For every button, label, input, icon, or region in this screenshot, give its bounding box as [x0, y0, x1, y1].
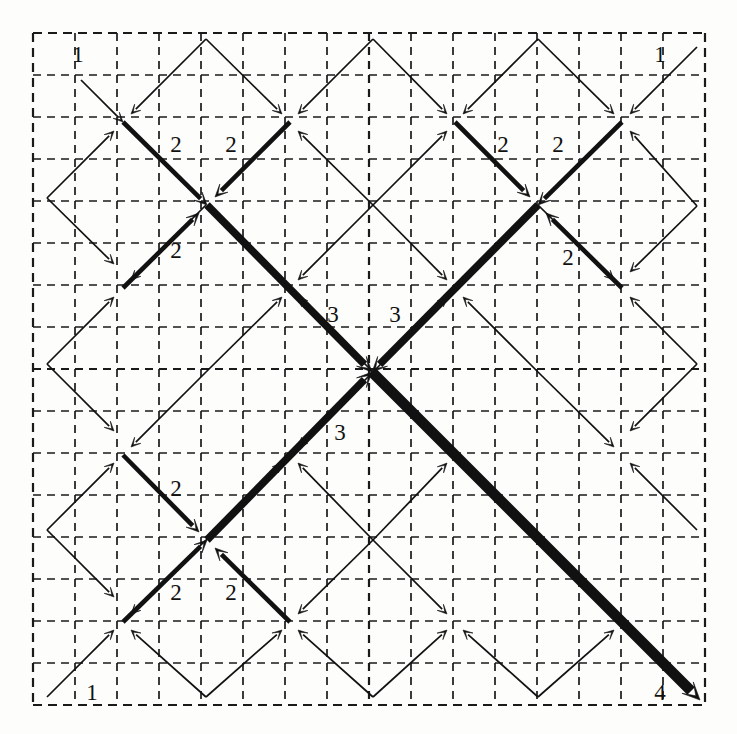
e1-nw-of-n00-shaft: [81, 80, 118, 117]
weight-label-2-bl-c: 2: [225, 580, 237, 605]
e1-nw-of-n01-shaft: [47, 198, 109, 259]
e1-nw-of-n10: [206, 39, 282, 114]
weight-label-2-tr-b: 2: [552, 132, 564, 157]
weight-label-2-tl-c: 2: [170, 238, 182, 263]
edges-layer: [47, 39, 700, 700]
e1-ne-of-n20-shaft: [468, 39, 538, 109]
e2-n01-to-c-tl: [123, 213, 199, 288]
e1-se-of-n10-shaft: [303, 136, 373, 205]
weight-label-2-tl-b: 2: [225, 132, 237, 157]
e1-sw-of-n01-shaft: [47, 302, 109, 364]
e1-sw-of-n23-shaft: [373, 635, 442, 697]
e1-ne-of-n30-shaft: [635, 47, 697, 109]
e1-ne-of-n10-shaft: [303, 39, 373, 109]
e1-se-of-n10: [298, 131, 373, 205]
e1-ne-of-n02: [131, 372, 206, 447]
e1-nw-of-n02: [47, 364, 114, 431]
e1-sw-of-n20-shaft: [373, 136, 442, 205]
weight-label-2-tr-a: 2: [497, 132, 509, 157]
e1-se-of-n30-shaft: [635, 136, 697, 206]
e1-nw-of-n30: [538, 39, 614, 114]
e1-sw-of-n13-shaft: [206, 635, 277, 697]
weight-label-2-tl-a: 2: [170, 132, 182, 157]
e1-nw-of-n00: [81, 80, 123, 122]
e1-nw-of-n03-shaft: [47, 530, 109, 592]
e1-nw-of-n23-shaft: [373, 540, 442, 609]
e1-se-of-n21: [463, 297, 538, 372]
e1-sw-of-n22: [373, 463, 447, 540]
weight-label-3-lower-left: 3: [334, 420, 346, 445]
e2-n20-to-c-tr-shaft: [455, 122, 524, 191]
e1-sw-of-n22-shaft: [373, 468, 442, 540]
e1-ne-of-n32-shaft: [635, 364, 697, 426]
e3-bl-to-center: [207, 372, 372, 540]
e1-se-of-n31-shaft: [635, 302, 697, 364]
e1-nw-of-n20-shaft: [373, 39, 442, 109]
e1-nw-of-n10-shaft: [206, 39, 277, 109]
e1-sw-of-n03-shaft: [47, 635, 109, 697]
e2-n02-to-c-bl-shaft: [123, 455, 193, 526]
e4-center-to-exit-shaft: [372, 372, 691, 691]
e1-nw-of-n21-shaft: [373, 205, 442, 275]
e1-nw-of-n01: [47, 198, 114, 264]
e2-n02-to-c-bl: [123, 455, 199, 532]
e1-ne-of-n00: [131, 39, 206, 114]
e1-se-of-n13-shaft: [303, 635, 373, 697]
diagram-canvas: 1114222222222333: [0, 0, 737, 734]
e2-n00-to-c-tl-shaft: [123, 122, 201, 199]
e1-ne-of-n10: [298, 39, 373, 114]
weight-label-2-bl-a: 2: [170, 476, 182, 501]
weight-label-3-upper-left: 3: [327, 302, 339, 327]
e1-se-of-n03-shaft: [136, 635, 206, 697]
e1-nw-of-n32: [538, 372, 614, 447]
weight-label-3-upper-right: 3: [389, 302, 401, 327]
e1-se-of-n32-shaft: [635, 468, 697, 530]
weight-label-1-top-right: 1: [654, 42, 666, 67]
e1-nw-of-n32-shaft: [538, 372, 609, 442]
weight-label-2-tr-c: 2: [562, 245, 574, 270]
e1-nw-of-n30-shaft: [538, 39, 609, 109]
e1-ne-of-n00-shaft: [136, 39, 206, 109]
e1-sw-of-n20: [373, 131, 447, 205]
e1-sw-of-n01: [47, 297, 114, 364]
e1-nw-of-n20: [373, 39, 447, 114]
e1-sw-of-n11: [206, 297, 282, 372]
e2-n01-to-c-tl-shaft: [123, 219, 193, 288]
e1-se-of-n21-shaft: [468, 302, 538, 372]
e1-ne-of-n13-shaft: [303, 540, 373, 609]
e1-ne-of-n11-shaft: [303, 205, 373, 275]
e2-n31-to-c-tr: [546, 213, 622, 288]
e1-se-of-n12-shaft: [303, 468, 373, 540]
e1-sw-of-n11-shaft: [206, 302, 277, 372]
e1-ne-of-n13: [298, 540, 373, 614]
e1-nw-of-n02-shaft: [47, 364, 109, 426]
e1-se-of-n31: [630, 297, 697, 364]
e1-ne-of-n20: [463, 39, 538, 114]
e4-center-to-exit: [372, 372, 700, 700]
e2-n30-to-c-tr: [538, 122, 622, 205]
merge-flow-lattice: 1114222222222333: [0, 0, 737, 734]
e1-sw-of-n02-shaft: [47, 468, 109, 530]
e1-sw-of-n02: [47, 463, 114, 530]
e2-n03-to-c-bl: [123, 540, 207, 622]
e1-nw-of-n03: [47, 530, 114, 597]
e1-se-of-n12: [298, 463, 373, 540]
e1-nw-of-n23: [373, 540, 447, 614]
e2-n00-to-c-tl: [123, 122, 207, 205]
weight-label-1-bottom-left: 1: [86, 680, 98, 705]
e2-n20-to-c-tr: [455, 122, 530, 197]
e1-sw-of-n00-shaft: [47, 136, 109, 198]
e2-n03-to-c-bl-shaft: [123, 546, 201, 622]
weight-label-4-bottom-right: 4: [654, 680, 666, 705]
weight-label-2-bl-b: 2: [170, 580, 182, 605]
e1-sw-of-n00: [47, 131, 114, 198]
e1-ne-of-n31-shaft: [635, 206, 697, 267]
e1-ne-of-n02-shaft: [136, 372, 206, 442]
e1-se-of-n23-shaft: [468, 635, 538, 697]
e1-sw-of-n33: [538, 630, 614, 697]
weight-label-1-top-left: 1: [72, 42, 84, 67]
e1-sw-of-n33-shaft: [538, 635, 609, 697]
